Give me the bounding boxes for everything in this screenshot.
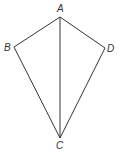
kite-diagram: A B C D [0, 0, 122, 160]
edge-cd [60, 48, 105, 138]
edge-ab [14, 17, 60, 47]
vertex-label-a: A [56, 3, 64, 14]
edge-bc [14, 47, 60, 138]
vertex-label-c: C [56, 140, 64, 151]
vertex-label-b: B [4, 42, 11, 53]
vertex-label-d: D [107, 43, 114, 54]
edge-da [60, 17, 105, 48]
